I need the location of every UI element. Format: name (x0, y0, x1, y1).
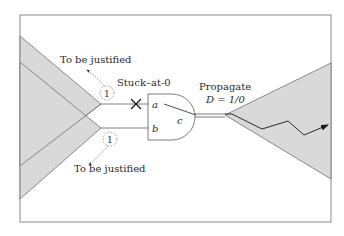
fault-propagation-diagram: a b c 1 1 To be justified To be justifie… (0, 0, 344, 236)
gate-output-c-label: c (177, 115, 183, 126)
required-value-a: 1 (104, 89, 110, 99)
required-value-b: 1 (107, 135, 113, 145)
propagate-label: Propagate (199, 81, 251, 92)
gate-input-b-label: b (152, 123, 158, 134)
stuck-at-label: Stuck–at-0 (117, 77, 171, 88)
justify-label-top: To be justified (60, 54, 132, 65)
justify-label-bottom: To be justified (74, 163, 146, 174)
gate-input-a-label: a (152, 99, 158, 110)
d-value-label: D = 1/0 (205, 94, 245, 105)
